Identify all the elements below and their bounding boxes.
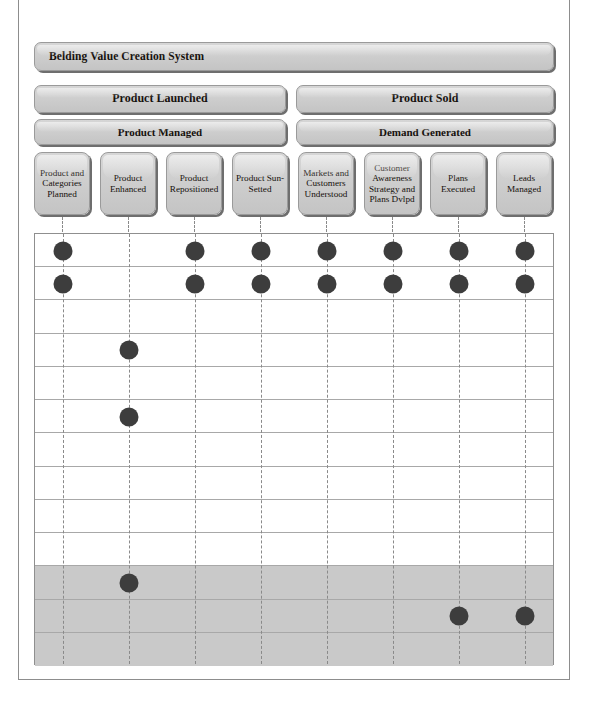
connector-stub-1 — [62, 217, 63, 232]
grid-row — [35, 300, 553, 333]
column-header-label: Product Repositioned — [168, 173, 220, 194]
column-header-box-6: Customer Awareness Strategy and Plans Dv… — [364, 152, 420, 215]
grid-marker-r12-c7 — [450, 607, 469, 626]
grid-row — [35, 334, 553, 367]
grid-marker-r2-c3 — [186, 274, 205, 293]
column-header-label: Plans Executed — [432, 173, 484, 194]
grid-row — [35, 600, 553, 633]
grid-row — [35, 467, 553, 500]
grid-row — [35, 633, 553, 666]
grid-column-line-3 — [195, 234, 196, 664]
grid-marker-r1-c8 — [516, 241, 535, 260]
grid-row — [35, 433, 553, 466]
connector-stub-4 — [260, 217, 261, 232]
grid-marker-r2-c4 — [252, 274, 271, 293]
level2-label: Product Sold — [392, 92, 459, 105]
grid-marker-r2-c1 — [54, 274, 73, 293]
column-header-box-4: Product Sun-Setted — [232, 152, 288, 215]
grid-column-line-7 — [459, 234, 460, 664]
level3-label: Product Managed — [118, 126, 202, 138]
grid-marker-r2-c6 — [384, 274, 403, 293]
grid-marker-r1-c4 — [252, 241, 271, 260]
level2-box-product-sold: Product Sold — [296, 85, 554, 113]
grid-column-line-8 — [525, 234, 526, 664]
level3-box-demand-generated: Demand Generated — [296, 119, 554, 145]
grid-row — [35, 533, 553, 566]
grid-marker-r1-c3 — [186, 241, 205, 260]
column-header-box-1: Product and Categories Planned — [34, 152, 90, 215]
level3-box-product-managed: Product Managed — [34, 119, 286, 145]
level2-label: Product Launched — [112, 92, 207, 105]
grid-marker-r2-c5 — [318, 274, 337, 293]
capability-grid — [34, 233, 554, 665]
grid-column-line-4 — [261, 234, 262, 664]
grid-row — [35, 500, 553, 533]
grid-marker-r1-c7 — [450, 241, 469, 260]
grid-marker-r1-c5 — [318, 241, 337, 260]
connector-stub-6 — [392, 217, 393, 232]
grid-marker-r2-c7 — [450, 274, 469, 293]
column-header-box-3: Product Repositioned — [166, 152, 222, 215]
level3-label: Demand Generated — [379, 126, 471, 138]
grid-row — [35, 566, 553, 599]
grid-row — [35, 400, 553, 433]
grid-row — [35, 367, 553, 400]
grid-column-line-6 — [393, 234, 394, 664]
connector-stub-7 — [458, 217, 459, 232]
grid-marker-r2-c8 — [516, 274, 535, 293]
column-header-label: Product and Categories Planned — [36, 168, 88, 199]
system-title-label: Belding Value Creation System — [49, 50, 204, 63]
column-header-label: Leads Managed — [498, 173, 550, 194]
connector-stub-2 — [128, 217, 129, 232]
column-header-label: Markets and Customers Understood — [300, 168, 352, 199]
grid-marker-r6-c2 — [120, 407, 139, 426]
grid-column-line-5 — [327, 234, 328, 664]
grid-column-line-1 — [63, 234, 64, 664]
connector-stub-5 — [326, 217, 327, 232]
grid-marker-r11-c2 — [120, 573, 139, 592]
grid-row — [35, 234, 553, 267]
grid-marker-r12-c8 — [516, 607, 535, 626]
column-header-box-7: Plans Executed — [430, 152, 486, 215]
column-header-label: Product Enhanced — [102, 173, 154, 194]
grid-column-line-2 — [129, 234, 130, 664]
column-header-label: Customer Awareness Strategy and Plans Dv… — [366, 163, 418, 204]
column-header-box-5: Markets and Customers Understood — [298, 152, 354, 215]
column-header-label: Product Sun-Setted — [234, 173, 286, 194]
grid-marker-r4-c2 — [120, 341, 139, 360]
column-header-box-8: Leads Managed — [496, 152, 552, 215]
level2-box-product-launched: Product Launched — [34, 85, 286, 113]
grid-marker-r1-c6 — [384, 241, 403, 260]
system-title-box: Belding Value Creation System — [34, 42, 554, 71]
grid-row — [35, 267, 553, 300]
grid-marker-r1-c1 — [54, 241, 73, 260]
connector-stub-8 — [524, 217, 525, 232]
connector-stub-3 — [194, 217, 195, 232]
column-header-box-2: Product Enhanced — [100, 152, 156, 215]
